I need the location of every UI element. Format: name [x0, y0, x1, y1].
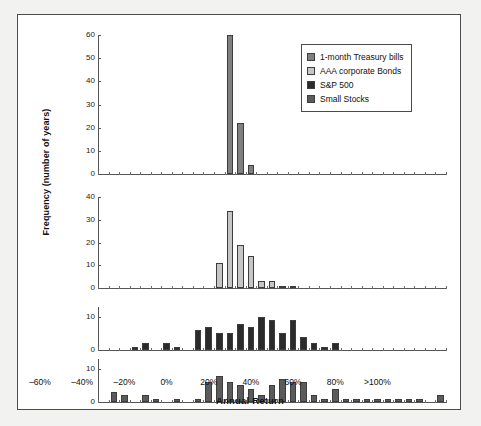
legend-swatch-icon [307, 67, 315, 75]
histogram-bar [174, 347, 181, 350]
histogram-bar [279, 333, 286, 350]
panel-plot-area: 010203040 [98, 197, 446, 289]
y-tick-label: 20 [86, 124, 95, 132]
histogram-bar [269, 281, 276, 288]
histogram-bar [227, 333, 234, 350]
legend-item-label: Small Stocks [320, 95, 369, 104]
histogram-bar [269, 320, 276, 350]
histogram-bar [195, 330, 202, 350]
x-tick-label: 80% [327, 377, 344, 387]
histogram-bar [227, 211, 234, 288]
y-axis-title: Frequency (number of years) [41, 82, 51, 262]
bars-layer [98, 307, 446, 350]
bars-layer [98, 197, 446, 288]
histogram-bar [237, 324, 244, 350]
histogram-bar [205, 327, 212, 350]
legend-swatch-icon [307, 81, 315, 89]
x-tick-mark [446, 348, 447, 351]
x-axis-tick-labels: –60%–40%–20%0%20%40%60%80%>100% [40, 377, 460, 391]
legend: 1-month Treasury billsAAA corporate Bond… [301, 44, 412, 112]
histogram-bar [311, 343, 318, 350]
x-tick-label: 60% [285, 377, 302, 387]
x-tick-label: –40% [71, 377, 93, 387]
histogram-bar [332, 343, 339, 350]
histogram-bar [237, 245, 244, 288]
panel-3: 010 [76, 307, 446, 351]
y-tick-label: 10 [86, 147, 95, 155]
histogram-bar [248, 165, 255, 174]
y-tick-label: 10 [86, 365, 95, 373]
legend-item-4: Small Stocks [307, 92, 404, 106]
x-tick-label: >100% [364, 377, 391, 387]
y-tick-label: 50 [86, 54, 95, 62]
x-tick-label: 0% [160, 377, 172, 387]
y-tick-label: 10 [86, 261, 95, 269]
histogram-bar [227, 35, 234, 174]
x-tick-mark [446, 172, 447, 175]
legend-swatch-icon [307, 95, 315, 103]
figure-frame: Frequency (number of years) 010203040506… [17, 14, 461, 410]
y-tick-label: 0 [91, 284, 95, 292]
x-tick-label: 40% [242, 377, 259, 387]
histogram-bar [216, 333, 223, 350]
y-tick-label: 30 [86, 101, 95, 109]
legend-item-label: 1-month Treasury bills [320, 53, 404, 62]
legend-item-label: S&P 500 [320, 81, 353, 90]
histogram-bar [142, 343, 149, 350]
histogram-bar [132, 347, 139, 350]
y-tick-label: 0 [91, 170, 95, 178]
x-tick-label: –60% [29, 377, 51, 387]
histogram-bar [258, 281, 265, 288]
legend-item-1: 1-month Treasury bills [307, 50, 404, 64]
histogram-bar [258, 317, 265, 350]
histogram-bar [279, 286, 286, 288]
y-tick-label: 10 [86, 313, 95, 321]
legend-item-label: AAA corporate Bonds [320, 67, 401, 76]
legend-item-2: AAA corporate Bonds [307, 64, 404, 78]
legend-item-3: S&P 500 [307, 78, 404, 92]
histogram-bar [290, 286, 297, 288]
histogram-bar [216, 263, 223, 288]
histogram-bar [248, 327, 255, 350]
figure-page: Frequency (number of years) 010203040506… [0, 0, 481, 426]
histogram-bar [300, 337, 307, 350]
histogram-bar [237, 123, 244, 174]
y-tick-label: 20 [86, 239, 95, 247]
histogram-bar [248, 256, 255, 288]
x-axis-title: Annual Return [40, 395, 460, 406]
y-tick-label: 40 [86, 193, 95, 201]
y-tick-label: 40 [86, 77, 95, 85]
legend-swatch-icon [307, 53, 315, 61]
histogram-bar [163, 343, 170, 350]
x-tick-label: –20% [113, 377, 135, 387]
histogram-bar [321, 347, 328, 350]
y-tick-label: 30 [86, 216, 95, 224]
x-tick-label: 20% [200, 377, 217, 387]
y-tick-label: 60 [86, 31, 95, 39]
x-tick-mark [446, 286, 447, 289]
panel-plot-area: 010 [98, 307, 446, 351]
y-tick-label: 0 [91, 346, 95, 354]
panel-2: 010203040 [76, 197, 446, 289]
histogram-bar [290, 320, 297, 350]
